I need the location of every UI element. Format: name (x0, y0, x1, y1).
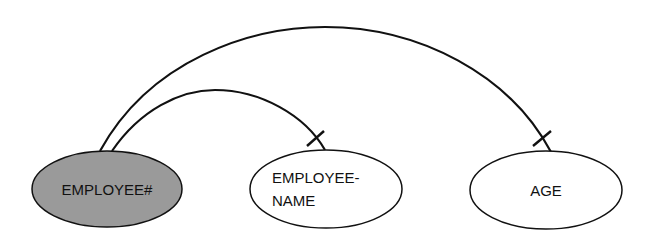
edge-employee-to-age (100, 27, 551, 152)
node-label-line1: EMPLOYEE- (272, 169, 360, 186)
node-employee-number: EMPLOYEE# (32, 151, 182, 227)
node-label: AGE (530, 182, 562, 199)
edge-employee-to-name (112, 90, 325, 151)
node-age: AGE (470, 151, 622, 229)
dependency-diagram: EMPLOYEE# EMPLOYEE- NAME AGE (0, 0, 657, 242)
node-label-line2: NAME (272, 192, 315, 209)
one-marker-age (533, 131, 551, 146)
node-employee-name: EMPLOYEE- NAME (250, 150, 402, 228)
node-label: EMPLOYEE# (62, 181, 154, 198)
